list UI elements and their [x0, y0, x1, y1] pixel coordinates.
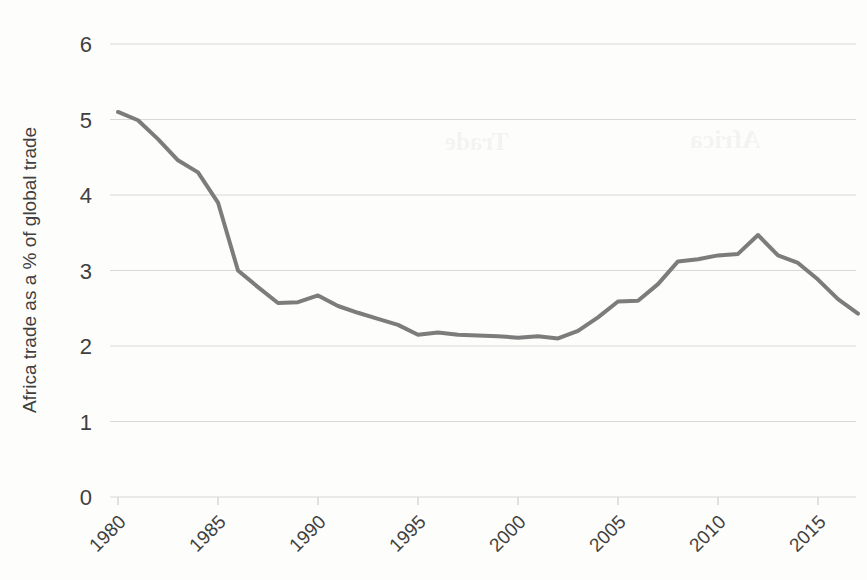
line-chart-plot: 0123456 19801985199019952000200520102015… — [0, 0, 867, 580]
x-tick-labels-group: 19801985199019952000200520102015 — [85, 511, 830, 556]
x-tick-label-1990: 1990 — [285, 511, 330, 556]
x-tick-label-2005: 2005 — [585, 511, 630, 556]
x-tick-label-2010: 2010 — [685, 511, 730, 556]
x-tick-label-1980: 1980 — [85, 511, 130, 556]
x-tick-label-2000: 2000 — [485, 511, 530, 556]
y-tick-label-2: 2 — [80, 334, 92, 359]
y-tick-label-5: 5 — [80, 108, 92, 133]
series-paths-group — [118, 112, 858, 339]
x-tick-label-1995: 1995 — [385, 511, 430, 556]
series-line-0 — [118, 112, 858, 339]
y-tick-label-4: 4 — [80, 183, 92, 208]
y-axis-label: Africa trade as a % of global trade — [19, 127, 40, 413]
y-tick-label-6: 6 — [80, 32, 92, 57]
x-tick-label-1985: 1985 — [185, 511, 230, 556]
y-tick-labels-group: 0123456 — [80, 32, 92, 510]
chart-figure: Trade Africa 0123456 1980198519901995200… — [0, 0, 867, 580]
gridlines-group — [110, 44, 856, 497]
x-tick-label-2015: 2015 — [785, 511, 830, 556]
y-tick-label-0: 0 — [80, 485, 92, 510]
y-tick-label-3: 3 — [80, 259, 92, 284]
y-tick-label-1: 1 — [80, 410, 92, 435]
x-tick-marks-group — [118, 497, 818, 505]
